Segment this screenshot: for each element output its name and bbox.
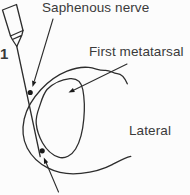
lateral-label: Lateral xyxy=(129,124,171,138)
injection-site-dot xyxy=(28,90,33,95)
plantar-leader xyxy=(44,158,59,193)
saphenous-nerve-label: Saphenous nerve xyxy=(42,1,149,15)
saphenous-leader xyxy=(32,19,53,87)
injection-site-dot xyxy=(40,148,45,153)
needle-line xyxy=(17,47,40,157)
bone-outline xyxy=(36,79,84,158)
arrowhead-icon xyxy=(44,158,48,164)
diagram-canvas xyxy=(0,0,190,195)
arrowhead-icon xyxy=(69,88,75,93)
foot-outline xyxy=(23,67,131,174)
anatomical-diagram: 1 Saphenous nerve First metatarsal Later… xyxy=(0,0,190,195)
step-number-label: 1 xyxy=(0,47,8,61)
syringe-barrel xyxy=(3,5,24,37)
arrowhead-icon xyxy=(32,81,36,87)
first-metatarsal-label: First metatarsal xyxy=(89,45,184,59)
